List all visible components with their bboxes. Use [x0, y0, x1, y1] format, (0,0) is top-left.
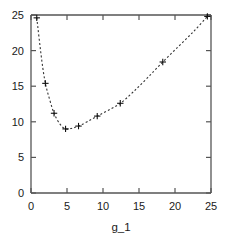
x-tick-label: 5 — [64, 200, 70, 212]
data-point-marker — [75, 123, 81, 129]
data-point-marker — [204, 13, 210, 19]
x-tick-label: 0 — [28, 200, 34, 212]
tick-marks — [31, 15, 211, 193]
y-tick-label: 5 — [18, 151, 24, 163]
y-tick-label: 0 — [18, 187, 24, 199]
curve-line — [37, 16, 208, 129]
x-tick-labels: 0510152025 — [28, 200, 217, 212]
data-point-marker — [94, 113, 100, 119]
x-tick-label: 10 — [97, 200, 109, 212]
y-tick-label: 20 — [12, 45, 24, 57]
y-tick-label: 15 — [12, 80, 24, 92]
x-tick-label: 20 — [169, 200, 181, 212]
plot-canvas: 0510152025 0510152025 g_1 — [0, 0, 232, 239]
y-tick-labels: 0510152025 — [12, 9, 24, 199]
data-markers — [34, 13, 211, 132]
y-tick-label: 10 — [12, 116, 24, 128]
chart-figure: 0510152025 0510152025 g_1 — [0, 0, 232, 239]
x-tick-label: 25 — [205, 200, 217, 212]
data-point-marker — [42, 80, 48, 86]
x-axis-title: g_1 — [111, 221, 130, 233]
data-point-marker — [51, 110, 57, 116]
x-tick-label: 15 — [133, 200, 145, 212]
data-point-marker — [62, 126, 68, 132]
plot-frame — [31, 15, 211, 193]
data-series-curve — [34, 13, 211, 132]
y-tick-label: 25 — [12, 9, 24, 21]
